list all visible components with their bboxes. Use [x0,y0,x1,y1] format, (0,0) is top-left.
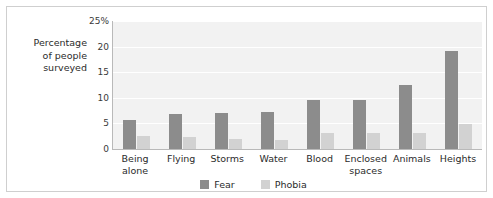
bar-phobia[interactable] [137,136,150,149]
bar-phobia[interactable] [275,140,288,149]
x-tick-label: Heights [429,153,487,165]
bar-fear[interactable] [169,114,182,149]
legend-label-phobia: Phobia [275,179,307,190]
y-tick-15: 15 [81,67,109,77]
y-tick-20: 20 [81,42,109,52]
bar-group [159,21,205,149]
bar-fear[interactable] [445,51,458,149]
y-tick-5: 5 [81,118,109,128]
legend-swatch-fear [200,180,209,189]
bar-fear[interactable] [261,112,274,149]
bar-group [113,21,159,149]
bar-series-container [113,21,482,149]
bar-fear[interactable] [123,120,136,149]
bar-fear[interactable] [215,113,228,149]
bar-fear[interactable] [307,100,320,149]
bar-group [344,21,390,149]
bar-group [251,21,297,149]
y-axis-label: Percentage of people surveyed [15,37,87,75]
bar-fear[interactable] [353,100,366,149]
bar-phobia[interactable] [183,137,196,149]
y-tick-0: 0 [81,144,109,154]
bar-phobia[interactable] [229,139,242,149]
x-axis-tick-labels: Being aloneFlyingStormsWaterBloodEnclose… [112,153,481,179]
legend-entry-phobia[interactable]: Phobia [261,179,307,190]
bar-group [298,21,344,149]
bar-phobia[interactable] [367,133,380,149]
plot-area [112,21,482,150]
chart-figure: Percentage of people surveyed 0510152025… [0,0,493,198]
bar-phobia[interactable] [413,133,426,149]
y-axis-tick-labels: 0510152025% [81,21,109,149]
legend-label-fear: Fear [214,179,235,190]
chart-legend: Fear Phobia [7,179,493,190]
legend-entry-fear[interactable]: Fear [200,179,235,190]
legend-swatch-phobia [261,180,270,189]
y-tick-25: 25% [81,16,109,26]
bar-group [205,21,251,149]
bar-fear[interactable] [399,85,412,149]
bar-phobia[interactable] [459,124,472,149]
bar-group [390,21,436,149]
bar-phobia[interactable] [321,133,334,149]
bar-group [436,21,482,149]
chart-frame: Percentage of people surveyed 0510152025… [6,6,487,192]
y-tick-10: 10 [81,93,109,103]
